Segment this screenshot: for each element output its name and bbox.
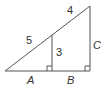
right-angle-marker-inner (47, 66, 52, 71)
right-angle-marker-outer (85, 66, 90, 71)
label-outer-leg: C (93, 39, 101, 51)
hypotenuse (5, 6, 90, 71)
label-hyp-upper: 4 (67, 4, 73, 16)
label-base-right: B (67, 74, 74, 86)
triangle-diagram: 5 4 3 C A B (0, 0, 104, 90)
label-base-left: A (26, 74, 34, 86)
label-inner-leg: 3 (56, 46, 62, 58)
label-hyp-lower: 5 (26, 34, 32, 46)
